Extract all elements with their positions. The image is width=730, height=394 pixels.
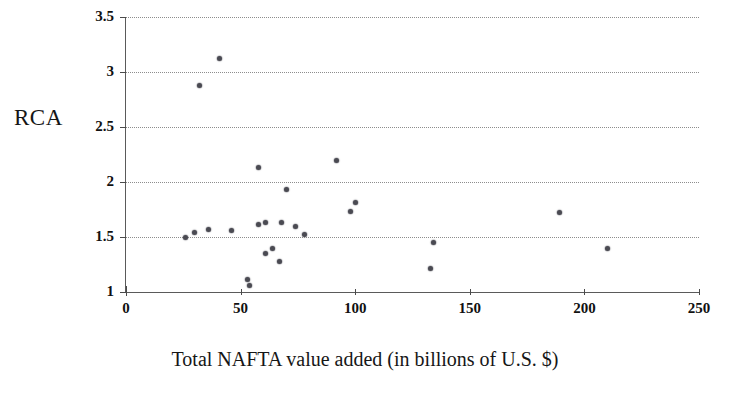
y-tick-label-text: 3.5: [74, 8, 114, 25]
y-tick: [120, 72, 126, 73]
data-point: [256, 165, 261, 170]
y-tick-label: 1.5: [70, 228, 114, 244]
y-tick: [120, 182, 126, 183]
x-tick-label: 200: [562, 300, 606, 317]
x-tick: [126, 286, 127, 296]
y-tick-label: 3.5: [70, 8, 114, 24]
data-point: [245, 277, 250, 282]
y-tick-label-text: 1.5: [74, 228, 114, 245]
x-tick: [355, 289, 356, 295]
y-tick-label: 2: [70, 173, 114, 189]
x-tick-label: 0: [104, 300, 148, 317]
x-tick: [241, 289, 242, 295]
data-point: [348, 209, 353, 214]
x-tick: [470, 289, 471, 295]
data-point: [284, 187, 289, 192]
data-point: [431, 240, 436, 245]
y-tick-label: 2.5: [70, 118, 114, 134]
plot-area: [126, 17, 699, 292]
data-point: [183, 235, 188, 240]
data-point: [605, 246, 610, 251]
scatter-chart: RCA 11.522.533.5 050100150200250 Total N…: [0, 0, 730, 394]
y-tick-label-text: 2: [74, 173, 114, 190]
data-point: [192, 230, 197, 235]
data-point: [293, 224, 298, 229]
x-tick: [699, 289, 700, 295]
x-axis-title: Total NAFTA value added (in billions of …: [0, 348, 730, 371]
gridline-y: [126, 237, 699, 238]
gridline-y: [126, 72, 699, 73]
gridline-y: [126, 127, 699, 128]
data-point: [277, 259, 282, 264]
data-point: [557, 210, 562, 215]
x-tick-label: 100: [333, 300, 377, 317]
x-tick-label: 150: [448, 300, 492, 317]
data-point: [270, 246, 275, 251]
gridline-y: [126, 17, 699, 18]
gridline-y: [126, 182, 699, 183]
y-tick-label-text: 1: [74, 283, 114, 300]
x-tick: [584, 289, 585, 295]
data-point: [217, 56, 222, 61]
y-tick: [120, 237, 126, 238]
y-tick-label: 1: [70, 283, 114, 299]
x-tick-label: 50: [219, 300, 263, 317]
data-point: [279, 220, 284, 225]
data-point: [197, 83, 202, 88]
y-tick: [120, 127, 126, 128]
data-point: [247, 283, 252, 288]
data-point: [353, 200, 358, 205]
data-point: [256, 222, 261, 227]
y-tick: [120, 17, 126, 18]
data-point: [206, 227, 211, 232]
y-axis-title: RCA: [14, 105, 63, 131]
data-point: [263, 220, 268, 225]
data-point: [263, 251, 268, 256]
y-tick-label-text: 2.5: [74, 118, 114, 135]
data-point: [229, 228, 234, 233]
data-point: [334, 158, 339, 163]
x-axis-line: [126, 292, 700, 293]
x-tick-label: 250: [677, 300, 721, 317]
y-tick-label: 3: [70, 63, 114, 79]
y-tick-label-text: 3: [74, 63, 114, 80]
data-point: [428, 266, 433, 271]
